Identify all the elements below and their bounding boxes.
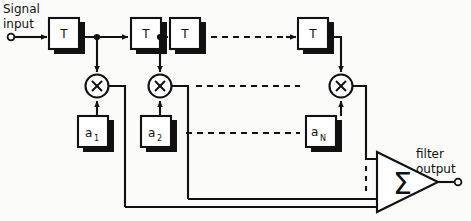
filter-output-label: filter output xyxy=(416,147,456,176)
coefficient-box-2: a 2 xyxy=(141,116,177,152)
multiplier-1 xyxy=(86,75,109,98)
fir-filter-diagram: Signal input T T T T xyxy=(0,0,471,221)
coefficient-box-1-base: a xyxy=(85,126,92,140)
filter-output-label-line1: filter xyxy=(416,147,444,161)
coefficient-box-2-base: a xyxy=(148,126,155,140)
multiplier-2 xyxy=(149,75,172,98)
summer-label: Σ xyxy=(393,166,412,201)
coefficient-box-2-subscript: 2 xyxy=(157,134,162,143)
signal-input-label: Signal input xyxy=(3,2,40,31)
fir-filter-schematic: Signal input T T T T xyxy=(0,0,471,221)
multiplier-n xyxy=(330,75,353,98)
wire-multiplierN-to-summer xyxy=(352,86,376,159)
coefficient-box-n: a N xyxy=(306,116,342,152)
coefficient-box-1-face xyxy=(78,116,108,147)
signal-input-terminal xyxy=(8,34,15,41)
coefficient-box-n-subscript: N xyxy=(320,134,326,143)
filter-output-label-line2: output xyxy=(416,162,456,176)
coefficient-box-2-face xyxy=(141,116,171,147)
coefficient-box-1-subscript: 1 xyxy=(94,134,99,143)
signal-input-label-line1: Signal xyxy=(3,2,40,16)
delay-block-3-label: T xyxy=(180,27,189,41)
summer: Σ xyxy=(377,152,438,212)
coefficient-box-1: a 1 xyxy=(78,116,114,152)
delay-block-1-label: T xyxy=(59,27,68,41)
signal-input-label-line2: input xyxy=(3,17,34,31)
coefficient-box-n-base: a xyxy=(311,125,318,139)
delay-block-2-label: T xyxy=(141,27,150,41)
delay-block-4-label: T xyxy=(308,27,317,41)
filter-output-terminal xyxy=(455,179,462,186)
